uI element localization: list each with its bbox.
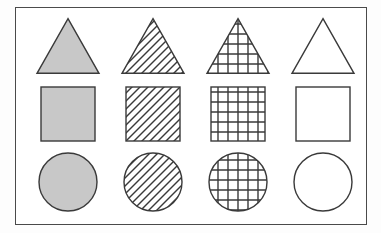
- triangle-empty-fill: [292, 19, 354, 74]
- square-solid-fill: [41, 87, 95, 141]
- shape-cell-circle-empty: [283, 150, 363, 214]
- shape-cell-square-grid: [198, 82, 278, 146]
- shape-cell-triangle-grid: [198, 14, 278, 78]
- shape-cell-triangle-empty: [283, 14, 363, 78]
- triangle-hatch-icon: [113, 14, 193, 78]
- square-solid-icon: [28, 82, 108, 146]
- shape-cell-circle-solid: [28, 150, 108, 214]
- shape-cell-square-hatch: [113, 82, 193, 146]
- shape-cell-triangle-solid: [28, 14, 108, 78]
- shape-grid: [16, 8, 368, 226]
- circle-hatch-icon: [113, 150, 193, 214]
- square-grid-icon: [198, 82, 278, 146]
- square-hatch-icon: [113, 82, 193, 146]
- shape-cell-square-empty: [283, 82, 363, 146]
- shape-cell-square-solid: [28, 82, 108, 146]
- square-empty-fill: [296, 87, 350, 141]
- figure-root: [0, 0, 381, 233]
- circle-empty-icon: [283, 150, 363, 214]
- circle-grid-icon: [198, 150, 278, 214]
- triangle-solid-fill: [37, 19, 99, 74]
- triangle-solid-icon: [28, 14, 108, 78]
- shape-cell-circle-hatch: [113, 150, 193, 214]
- figure-frame: [15, 7, 367, 225]
- square-grid-grid-pattern: [198, 82, 278, 146]
- shape-cell-triangle-hatch: [113, 14, 193, 78]
- shape-cell-circle-grid: [198, 150, 278, 214]
- square-empty-icon: [283, 82, 363, 146]
- circle-solid-icon: [28, 150, 108, 214]
- triangle-empty-icon: [283, 14, 363, 78]
- triangle-grid-icon: [198, 14, 278, 78]
